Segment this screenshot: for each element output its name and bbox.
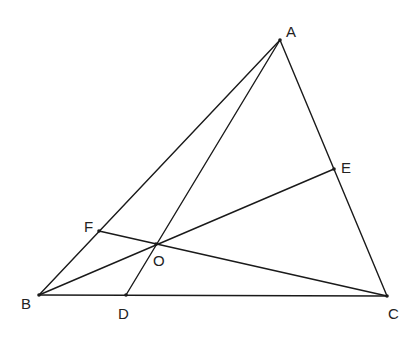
point-o (154, 242, 158, 246)
triangle-diagram: A B C D E F O (0, 0, 420, 338)
point-b (37, 293, 41, 297)
point-f (97, 229, 101, 233)
label-b: B (21, 295, 31, 312)
labels-group: A B C D E F O (21, 23, 399, 322)
point-e (332, 167, 336, 171)
label-c: C (388, 305, 399, 322)
points-group (37, 38, 389, 298)
label-d: D (118, 305, 129, 322)
segment-cf (99, 231, 387, 296)
segment-ad (126, 40, 280, 295)
point-d (124, 293, 128, 297)
label-a: A (286, 23, 296, 40)
point-c (385, 294, 389, 298)
label-o: O (153, 252, 165, 269)
point-a (278, 38, 282, 42)
label-f: F (84, 218, 93, 235)
label-e: E (341, 159, 351, 176)
segment-bc (39, 295, 387, 296)
